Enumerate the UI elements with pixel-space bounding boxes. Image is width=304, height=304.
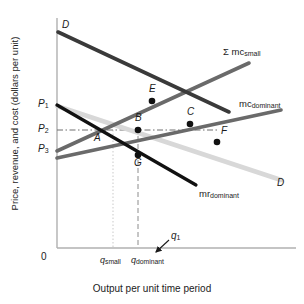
x-tick-label-q-dominant: qdominant (131, 256, 164, 266)
x-axis-title: Output per unit time period (0, 283, 304, 294)
y-tick-label-P1: P1 (38, 99, 49, 109)
point-marker-B (135, 127, 142, 134)
curve-label-mr-dominant: mrdominant (199, 189, 239, 199)
y-axis-title: Price, revenue, and cost (dollars per un… (9, 34, 20, 214)
annotation-label-q1: q1 (171, 231, 180, 241)
point-label-F: F (221, 126, 227, 136)
point-label-G: G (134, 158, 142, 168)
point-label-C: C (187, 107, 194, 117)
curve-label-residual-demand: D (277, 178, 284, 188)
point-label-A: A (94, 133, 101, 143)
x-tick-label-q-small: qsmall (100, 256, 121, 266)
y-tick-label-P2: P2 (38, 124, 49, 134)
point-marker-F (214, 139, 221, 146)
point-marker-C (187, 121, 194, 128)
q1-annotation-arrow (156, 240, 169, 252)
y-tick-label-P3: P3 (38, 144, 49, 154)
curve-market-demand (58, 32, 229, 112)
y-axis-title-wrapper: Price, revenue, and cost (dollars per un… (2, 0, 22, 260)
point-marker-E (149, 98, 156, 105)
origin-label: 0 (41, 252, 47, 262)
economics-chart-figure: D Σ mcsmall mcdominant mrdominant D A B … (0, 0, 304, 304)
curve-label-market-demand: D (62, 20, 69, 30)
curve-label-mc-dominant: mcdominant (239, 99, 280, 109)
point-label-B: B (135, 113, 142, 123)
point-label-E: E (149, 84, 156, 94)
curve-label-sum-mc-small: Σ mcsmall (223, 47, 261, 57)
